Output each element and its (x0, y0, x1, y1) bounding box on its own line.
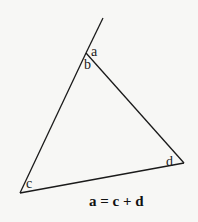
side-left (20, 53, 86, 193)
exterior-angle-diagram: a b c d a = c + d (0, 0, 198, 222)
angle-label-c: c (26, 176, 32, 191)
angle-label-a: a (91, 44, 98, 59)
angle-label-b: b (84, 57, 91, 72)
side-right (86, 53, 184, 163)
angle-label-d: d (166, 154, 173, 169)
equation-text: a = c + d (89, 193, 144, 209)
side-bottom (20, 163, 184, 193)
